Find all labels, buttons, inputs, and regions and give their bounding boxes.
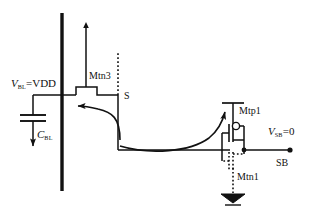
- mtn3-body: [76, 87, 118, 95]
- sense-bar-node-label: SB: [276, 158, 288, 168]
- bitline-voltage-symbol: V: [11, 77, 18, 89]
- bitline-capacitor-label: CBL: [37, 129, 53, 140]
- sense-bar-voltage-label: VSB=0: [268, 126, 294, 137]
- sense-bar-voltage-value: =0: [283, 125, 295, 137]
- discharge-flow-to-sense-bar-arrow: [120, 112, 225, 151]
- charge-flow-to-bitline-arrow: [78, 106, 120, 140]
- wordline-gate-arrow-head: [83, 22, 89, 28]
- bitline-voltage-subscript: BL: [18, 84, 26, 90]
- sense-bar-terminal-dot: [287, 147, 292, 152]
- bitline-capacitor-subscript: BL: [44, 135, 52, 141]
- bitline-voltage-value: =VDD: [26, 77, 56, 89]
- mtn1-label: Mtn1: [237, 172, 259, 182]
- bitline-voltage-label: VBL=VDD: [11, 78, 56, 89]
- sense-bar-voltage-subscript: SB: [275, 132, 283, 138]
- mtp1-inversion-bubble-icon: [232, 122, 239, 129]
- sense-bar-junction-dot: [242, 148, 247, 153]
- ground-icon: [221, 194, 245, 203]
- sense-node-label: S: [124, 91, 130, 101]
- mtn3-label: Mtn3: [89, 71, 111, 81]
- mtp1-label: Mtp1: [239, 106, 261, 116]
- sense-bar-voltage-symbol: V: [268, 125, 275, 137]
- figure-canvas: VBL=VDD CBL Mtn3 S Mtp1 Mtn1 VSB=0 SB: [0, 0, 311, 220]
- circuit-schematic: [0, 0, 311, 220]
